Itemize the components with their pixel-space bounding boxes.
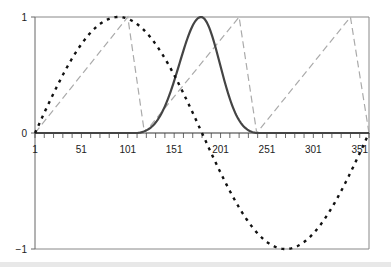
x-tick-label: 1	[32, 144, 38, 155]
x-tick-label: 101	[119, 144, 136, 155]
y-tick-label: 1	[21, 12, 27, 23]
x-tick-label: 251	[259, 144, 276, 155]
bottom-strip	[0, 262, 391, 267]
x-axis: 151101151201251301351	[32, 133, 369, 155]
x-tick-label: 151	[166, 144, 183, 155]
x-tick-label: 51	[76, 144, 88, 155]
series-layer	[35, 17, 369, 249]
x-tick-label: 201	[212, 144, 229, 155]
line-chart: −101 151101151201251301351	[0, 0, 391, 267]
x-tick-label: 301	[305, 144, 322, 155]
series-sawtooth	[35, 17, 369, 133]
y-axis: −101	[16, 12, 35, 255]
series-pulse	[35, 17, 369, 133]
y-tick-label: 0	[21, 128, 27, 139]
y-tick-label: −1	[16, 244, 28, 255]
